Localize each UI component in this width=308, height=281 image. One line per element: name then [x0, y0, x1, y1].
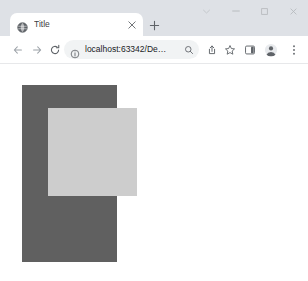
- window-controls: [192, 0, 308, 22]
- tab-search-icon[interactable]: [192, 0, 221, 22]
- more-menu-icon[interactable]: [285, 41, 303, 59]
- browser-window: Title: [0, 0, 308, 281]
- zoom-search-icon[interactable]: [183, 44, 195, 56]
- tab-title-page[interactable]: Title: [10, 13, 143, 36]
- page-content: [0, 65, 308, 281]
- profile-avatar-icon[interactable]: [262, 41, 280, 59]
- close-window-icon[interactable]: [279, 0, 308, 22]
- forward-icon[interactable]: [28, 41, 46, 59]
- address-bar[interactable]: localhost:63342/De…: [64, 40, 199, 59]
- reload-icon[interactable]: [46, 41, 64, 59]
- side-panel-icon[interactable]: [241, 41, 259, 59]
- close-icon[interactable]: [125, 18, 138, 31]
- globe-icon: [17, 19, 28, 30]
- tab-label: Title: [34, 19, 125, 30]
- url-text[interactable]: localhost:63342/De…: [85, 44, 183, 55]
- minimize-icon[interactable]: [221, 0, 250, 22]
- light-square: [48, 108, 137, 196]
- bookmark-star-icon[interactable]: [221, 41, 239, 59]
- new-tab-button[interactable]: [146, 17, 163, 34]
- navigation-toolbar: localhost:63342/De…: [0, 36, 308, 64]
- maximize-icon[interactable]: [250, 0, 279, 22]
- info-icon[interactable]: [70, 45, 80, 55]
- back-icon[interactable]: [9, 41, 27, 59]
- share-icon[interactable]: [203, 41, 221, 59]
